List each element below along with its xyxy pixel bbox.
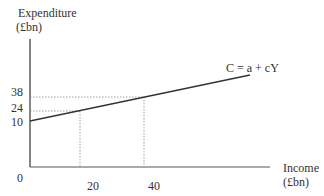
- y-tick-38: 38: [11, 86, 23, 99]
- chart-canvas: [0, 0, 324, 196]
- y-tick-10: 10: [11, 116, 23, 129]
- x-axis-title-line1: Income: [283, 162, 319, 175]
- origin-label: 0: [17, 172, 23, 185]
- x-tick-20: 20: [87, 180, 99, 193]
- y-tick-24: 24: [11, 102, 23, 115]
- consumption-function-label: C = a + cY: [226, 62, 279, 75]
- consumption-line: [30, 75, 250, 121]
- y-axis-title-line2: (£bn): [16, 21, 42, 34]
- x-tick-40: 40: [148, 180, 160, 193]
- y-axis-title-line1: Expenditure: [18, 7, 77, 20]
- x-axis-title-line2: (£bn): [283, 176, 309, 189]
